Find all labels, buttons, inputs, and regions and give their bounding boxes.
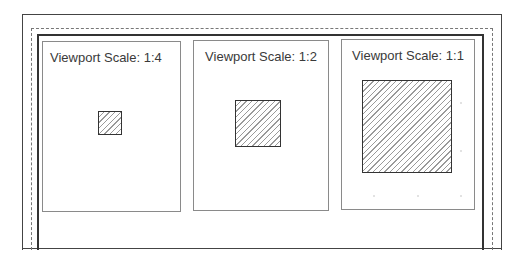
grid-dot (460, 150, 462, 152)
hatched-square[interactable] (98, 111, 122, 135)
hatched-square[interactable] (362, 80, 452, 173)
grid-dot (373, 195, 375, 197)
grid-dot (460, 195, 462, 197)
viewport-label: Viewport Scale: 1:2 (194, 49, 328, 64)
viewport-label: Viewport Scale: 1:1 (342, 48, 474, 63)
grid-dot (417, 195, 419, 197)
viewport-scale-1-4[interactable]: Viewport Scale: 1:4 (42, 41, 181, 212)
hatched-square[interactable] (235, 100, 281, 147)
viewport-scale-1-2[interactable]: Viewport Scale: 1:2 (193, 40, 329, 211)
viewport-label: Viewport Scale: 1:4 (50, 50, 180, 65)
viewport-scale-1-1[interactable]: Viewport Scale: 1:1 (341, 39, 475, 210)
grid-dot (460, 102, 462, 104)
